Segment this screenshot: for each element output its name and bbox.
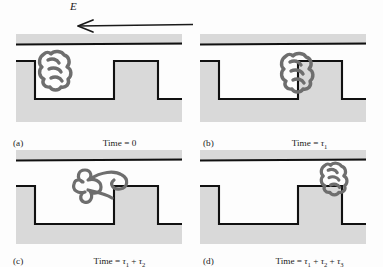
panel-c-diagram — [2, 148, 193, 258]
upper-wall-b — [200, 34, 366, 45]
panel-d-letter: (d) — [203, 256, 214, 266]
panel-c: (c) Time = τ1 + τ2 — [2, 148, 193, 267]
upper-wall-a — [16, 34, 182, 45]
lower-wall-d — [200, 186, 366, 244]
panel-b-letter: (b) — [203, 138, 214, 148]
panel-c-caption: (c) Time = τ1 + τ2 — [2, 256, 193, 267]
polymer-coil-a — [40, 51, 71, 90]
panel-a-time: Time = 0 — [52, 138, 187, 148]
lower-wall-c — [16, 186, 182, 244]
panel-d-caption: (d) Time = τ1 + τ2 + τ3 — [192, 256, 383, 267]
panel-c-letter: (c) — [13, 256, 23, 266]
panel-a-diagram — [2, 30, 193, 140]
panel-a: (a) Time = 0 — [2, 30, 193, 155]
panel-c-time: Time = τ1 + τ2 — [52, 256, 187, 267]
panel-b-diagram — [192, 30, 383, 140]
figure-root: E (a) Time = 0 — [0, 0, 383, 267]
panel-d: (d) Time = τ1 + τ2 + τ3 — [192, 148, 383, 267]
upper-wall-c — [16, 150, 182, 161]
panel-d-diagram — [192, 148, 383, 258]
panel-d-time: Time = τ1 + τ2 + τ3 — [242, 256, 377, 267]
panel-a-letter: (a) — [13, 138, 23, 148]
panel-b: (b) Time = τ1 — [192, 30, 383, 155]
upper-wall-d — [200, 150, 366, 161]
